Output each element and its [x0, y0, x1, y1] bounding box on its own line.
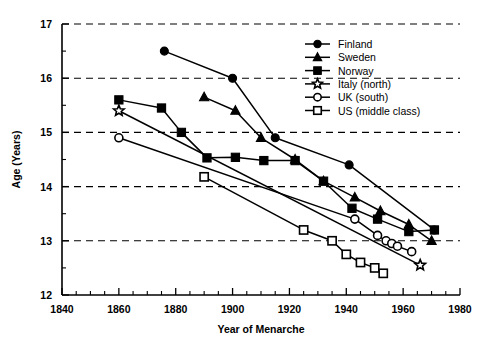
marker-filled-square — [319, 177, 327, 185]
marker-filled-square — [405, 227, 413, 235]
legend-label-sweden: Sweden — [338, 51, 376, 63]
marker-filled-triangle — [376, 206, 385, 215]
marker-filled-triangle — [350, 192, 359, 201]
series-line-sweden — [204, 97, 431, 241]
marker-open-square — [342, 250, 350, 258]
x-tick-label: 1880 — [164, 303, 188, 315]
marker-filled-square — [314, 67, 322, 75]
marker-filled-square — [157, 104, 165, 112]
x-tick-label: 1900 — [221, 303, 245, 315]
y-tick-label: 15 — [40, 126, 52, 138]
series-line-norway — [119, 100, 435, 232]
legend-label-norway: Norway — [338, 65, 374, 77]
marker-open-circle — [393, 242, 401, 250]
marker-open-square — [379, 269, 387, 277]
marker-filled-square — [291, 156, 299, 164]
series-line-italy-north — [119, 111, 420, 265]
marker-filled-square — [203, 154, 211, 162]
marker-filled-circle — [314, 40, 321, 47]
legend-label-italy-north: Italy (north) — [338, 78, 391, 90]
marker-filled-circle — [271, 134, 279, 142]
x-tick-label: 1920 — [278, 303, 302, 315]
marker-filled-circle — [345, 161, 353, 169]
x-tick-label: 1840 — [50, 303, 74, 315]
x-tick-label: 1960 — [391, 303, 415, 315]
marker-open-square — [300, 226, 308, 234]
marker-filled-square — [260, 156, 268, 164]
menarche-age-line-chart: 1213141516171840186018801900192019401960… — [0, 0, 493, 348]
marker-filled-triangle — [200, 92, 209, 101]
marker-filled-square — [115, 96, 123, 104]
marker-open-square — [328, 237, 336, 245]
marker-open-circle — [314, 94, 321, 101]
marker-filled-circle — [160, 47, 168, 55]
x-tick-label: 1940 — [335, 303, 359, 315]
x-tick-label: 1860 — [107, 303, 131, 315]
marker-open-square — [356, 258, 364, 266]
marker-filled-square — [348, 204, 356, 212]
marker-open-circle — [115, 134, 123, 142]
marker-open-star — [313, 79, 323, 88]
marker-filled-square — [177, 128, 185, 136]
y-tick-label: 16 — [40, 72, 52, 84]
marker-open-star — [114, 105, 125, 115]
x-tick-label: 1980 — [448, 303, 472, 315]
marker-open-circle — [408, 248, 416, 256]
marker-open-circle — [351, 215, 359, 223]
marker-filled-circle — [229, 74, 237, 82]
marker-filled-square — [373, 215, 381, 223]
legend-label-us-middle-class: US (middle class) — [338, 105, 420, 117]
x-axis-title: Year of Menarche — [218, 323, 305, 335]
marker-filled-square — [231, 153, 239, 161]
y-tick-label: 17 — [40, 18, 52, 30]
legend-label-uk-south: UK (south) — [338, 91, 388, 103]
marker-filled-square — [430, 226, 438, 234]
marker-filled-triangle — [404, 220, 413, 229]
marker-open-star — [415, 260, 426, 270]
chart-canvas: 1213141516171840186018801900192019401960… — [0, 0, 493, 348]
marker-open-square — [371, 264, 379, 272]
series-line-uk-south — [119, 138, 412, 252]
marker-open-square — [200, 173, 208, 181]
y-axis-title: Age (Years) — [10, 131, 22, 189]
y-tick-label: 14 — [40, 181, 52, 193]
marker-filled-triangle — [427, 236, 436, 245]
marker-open-square — [314, 107, 322, 115]
y-tick-label: 12 — [40, 289, 52, 301]
legend-label-finland: Finland — [338, 38, 373, 50]
y-tick-label: 13 — [40, 235, 52, 247]
marker-open-circle — [374, 231, 382, 239]
